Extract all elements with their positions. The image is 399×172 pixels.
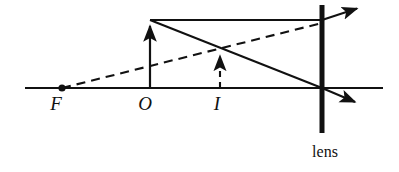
focal-point-label: F (49, 93, 62, 114)
object-point-label: O (138, 93, 152, 114)
focal-point-dot (58, 84, 65, 91)
lens-label: lens (312, 143, 338, 160)
image-point-label: I (213, 93, 222, 114)
ray-diagram-canvas: F O I lens (0, 0, 399, 172)
virtual-ray-from-focus (62, 23, 322, 88)
refracted-upper-ray (322, 9, 357, 21)
refracted-lower-ray (322, 88, 355, 102)
optics-ray-diagram-figure: F O I lens (0, 0, 399, 172)
